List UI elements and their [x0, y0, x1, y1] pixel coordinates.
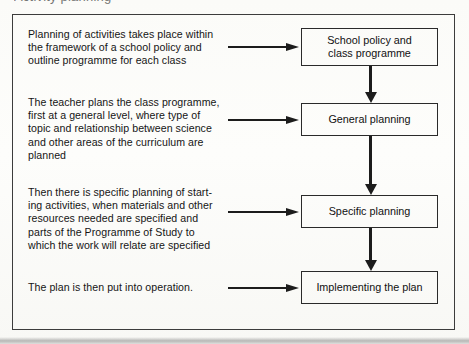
- stage-box: General planning: [301, 103, 438, 136]
- arrow-shaft: [369, 228, 372, 261]
- arrow-shaft: [228, 287, 290, 289]
- figure-heading: Activity planning: [14, 0, 111, 4]
- stage-box: Implementing the plan: [301, 271, 438, 304]
- arrow-shaft: [369, 66, 372, 93]
- arrow-head: [286, 208, 299, 216]
- arrow-head: [286, 43, 299, 51]
- arrow-shaft: [228, 46, 290, 48]
- step-description: Planning of activities takes place withi…: [28, 28, 228, 68]
- arrow-shaft: [369, 136, 372, 185]
- arrow-right-icon: [228, 207, 300, 217]
- arrow-head: [365, 184, 377, 195]
- scan-edge-shadow: [0, 337, 469, 344]
- step-description: The plan is then put into operation.: [28, 281, 234, 294]
- arrow-down-icon: [365, 228, 377, 271]
- step-description: The teacher plans the class programme, f…: [28, 96, 234, 162]
- arrow-shaft: [228, 119, 290, 121]
- arrow-head: [365, 92, 377, 103]
- arrow-right-icon: [228, 42, 300, 52]
- stage-box: School policy and class programme: [301, 28, 438, 66]
- arrow-head: [365, 260, 377, 271]
- arrow-shaft: [228, 211, 290, 213]
- stage-box: Specific planning: [301, 195, 438, 228]
- arrow-head: [286, 284, 299, 292]
- arrow-right-icon: [228, 115, 300, 125]
- arrow-head: [286, 116, 299, 124]
- step-description: Then there is specific planning of start…: [28, 186, 240, 252]
- arrow-down-icon: [365, 66, 377, 103]
- arrow-down-icon: [365, 136, 377, 195]
- arrow-right-icon: [228, 283, 300, 293]
